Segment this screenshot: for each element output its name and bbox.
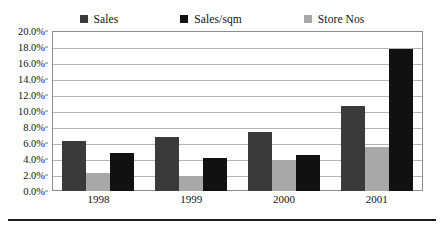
y-tick-label: 14.0% [18,74,45,85]
y-tick-mark [45,191,48,192]
y-tick-label: 18.0% [18,42,45,53]
legend-label-sales: Sales [94,13,119,25]
bar [86,173,110,191]
bar-group [145,31,238,191]
y-tick-label: 12.0% [18,90,45,101]
y-tick-label: 10.0% [18,106,45,117]
bar [155,137,179,191]
chart-legend: Sales Sales/sqm Store Nos [0,11,444,27]
y-axis: 20.0%18.0%16.0%14.0%12.0%10.0%8.0%6.0%4.… [0,31,48,191]
bar-chart-figure: Sales Sales/sqm Store Nos 20.0%18.0%16.0… [0,0,444,230]
bar [62,141,86,191]
bar [248,132,272,191]
bar [179,176,203,191]
x-tick-label: 2001 [366,193,388,206]
y-tick-mark [45,95,48,96]
y-tick-label: 16.0% [18,58,45,69]
bar [365,147,389,191]
legend-entry-sales-per-sqm: Sales/sqm [180,13,242,25]
bottom-divider [8,219,436,221]
legend-label-sales-per-sqm: Sales/sqm [194,13,242,25]
legend-swatch-sales-per-sqm [180,15,188,23]
x-tick-label: 2000 [273,193,295,206]
y-tick-mark [45,143,48,144]
y-tick-mark [45,79,48,80]
x-tick-label: 1998 [87,193,109,206]
y-tick-label: 8.0% [23,122,45,133]
x-tick-label: 1999 [180,193,202,206]
y-tick-mark [45,63,48,64]
bar [341,106,365,191]
y-tick-label: 4.0% [23,154,45,165]
y-tick-label: 0.0% [23,186,45,197]
bar-group [238,31,331,191]
x-axis: 1998199920002001 [52,193,423,209]
y-tick-mark [45,47,48,48]
y-tick-label: 6.0% [23,138,45,149]
y-tick-mark [45,127,48,128]
bars-layer [52,31,423,191]
y-tick-label: 20.0% [18,26,45,37]
bar-group [330,31,423,191]
y-tick-mark [45,159,48,160]
bar [296,155,320,191]
bar [110,153,134,191]
bar-group [52,31,145,191]
bar [203,158,227,191]
legend-swatch-sales [80,15,88,23]
legend-entry-store-nos: Store Nos [304,13,365,25]
legend-swatch-store-nos [304,15,312,23]
y-tick-mark [45,175,48,176]
y-tick-label: 2.0% [23,170,45,181]
y-tick-mark [45,31,48,32]
y-tick-mark [45,111,48,112]
legend-label-store-nos: Store Nos [318,13,365,25]
bar [389,49,413,191]
legend-entry-sales: Sales [80,13,119,25]
bar [272,160,296,191]
